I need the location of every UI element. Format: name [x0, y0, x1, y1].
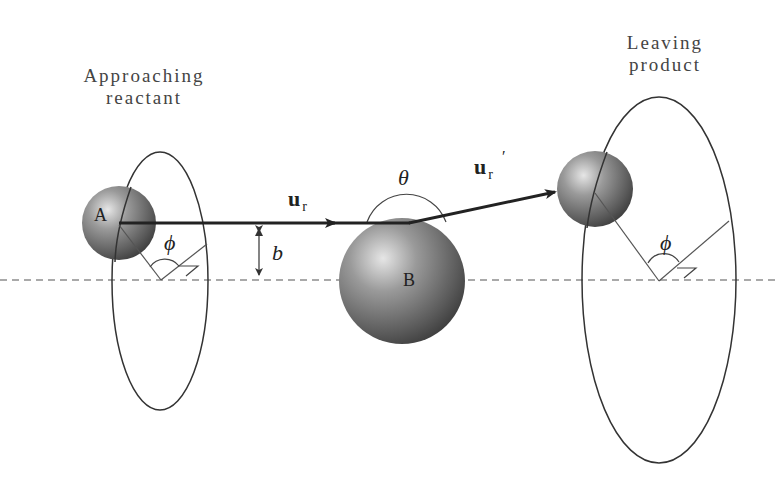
sphere-b: [339, 218, 465, 344]
velocity-out-symbol: u: [474, 154, 486, 179]
velocity-out-subscript: r: [488, 167, 493, 182]
leaving-label-line2: product: [600, 54, 730, 76]
leaving-label-line1: Leaving: [600, 32, 730, 54]
impact-parameter-label: b: [272, 240, 283, 266]
left-right-angle-mark: [178, 266, 198, 276]
right-right-angle-mark: [677, 268, 696, 278]
velocity-in-label: ur: [288, 186, 307, 212]
particle-b-label: B: [403, 270, 415, 291]
phi-right-label: ϕ: [660, 230, 671, 256]
phi-left-label: ϕ: [164, 230, 175, 256]
outgoing-trajectory: [409, 192, 555, 223]
approaching-reactant-label: Approaching reactant: [58, 65, 230, 109]
impact-arrow-up-head: [255, 228, 263, 236]
velocity-out-label: ur′: [474, 154, 493, 180]
particle-a-label: A: [94, 205, 107, 226]
velocity-in-symbol: u: [288, 186, 300, 211]
leaving-product-label: Leaving product: [600, 32, 730, 76]
theta-label: θ: [398, 165, 409, 191]
left-phi-arc: [150, 259, 179, 267]
velocity-out-prime: ′: [502, 148, 506, 166]
velocity-in-subscript: r: [302, 199, 307, 214]
approaching-label-line2: reactant: [58, 87, 230, 109]
approaching-label-line1: Approaching: [58, 65, 230, 87]
